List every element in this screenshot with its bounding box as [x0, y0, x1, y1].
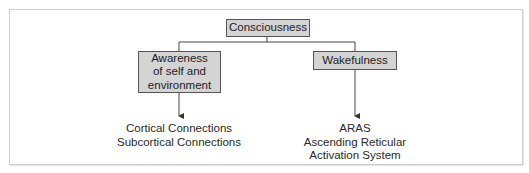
leaf-awareness-line: Subcortical Connections [104, 136, 254, 150]
leaf-wakefulness-line: Activation System [295, 149, 415, 163]
node-awareness-line: Awareness [151, 52, 208, 66]
node-awareness-line: of self and [153, 65, 206, 79]
node-wakefulness-label: Wakefulness [322, 54, 387, 68]
leaf-wakefulness-line: Ascending Reticular [295, 136, 415, 150]
leaf-wakefulness: ARAS Ascending Reticular Activation Syst… [295, 122, 415, 163]
node-awareness: Awareness of self and environment [138, 51, 221, 93]
node-awareness-line: environment [148, 79, 211, 93]
node-consciousness: Consciousness [226, 19, 310, 37]
leaf-awareness: Cortical Connections Subcortical Connect… [104, 122, 254, 149]
node-wakefulness: Wakefulness [313, 51, 397, 70]
leaf-awareness-line: Cortical Connections [104, 122, 254, 136]
leaf-wakefulness-line: ARAS [295, 122, 415, 136]
node-consciousness-label: Consciousness [229, 21, 307, 35]
